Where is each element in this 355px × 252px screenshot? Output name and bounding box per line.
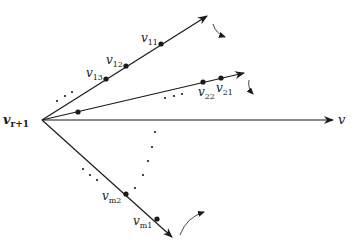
rays: v11v12v13v21v22vm1vm2 bbox=[42, 16, 253, 237]
ray-m-arrow bbox=[42, 120, 172, 237]
vector-rays-diagram: v v11v12v13v21v22vm1vm2 vr+1 bbox=[0, 0, 355, 252]
ellipsis-near-ray-m bbox=[82, 168, 98, 181]
ray-m: vm1vm2 bbox=[42, 120, 204, 237]
ellipsis-between-ray1-ray2 bbox=[56, 91, 73, 102]
vector-point bbox=[158, 41, 163, 46]
origin-label-subscript: r+1 bbox=[11, 119, 30, 129]
ellipsis-dot bbox=[142, 174, 144, 176]
ellipsis-dot bbox=[71, 91, 73, 93]
rotation-arrow-icon bbox=[213, 24, 225, 37]
ray-1: v11v12v13 bbox=[42, 16, 225, 120]
point-label: v21 bbox=[216, 81, 233, 97]
vector-point bbox=[218, 75, 223, 80]
ellipsis-dot bbox=[151, 146, 153, 148]
point-label: v22 bbox=[198, 85, 215, 101]
ellipsis-dot bbox=[82, 168, 84, 170]
rotation-arrow-icon bbox=[180, 212, 204, 235]
ellipsis-dot bbox=[181, 93, 183, 95]
point-label: v13 bbox=[86, 66, 103, 82]
rotation-arrow-icon bbox=[249, 80, 253, 94]
ellipsis-dot bbox=[56, 100, 58, 102]
ellipsis-dot bbox=[89, 174, 91, 176]
vector-point bbox=[75, 109, 80, 114]
vector-point bbox=[154, 216, 159, 221]
point-label: vm2 bbox=[102, 189, 121, 205]
vector-point bbox=[123, 191, 128, 196]
ellipsis-dot bbox=[164, 97, 166, 99]
vector-point bbox=[123, 63, 128, 68]
vector-point bbox=[103, 76, 108, 81]
ray-2: v21v22 bbox=[42, 73, 253, 120]
axis-label-v: v bbox=[338, 112, 346, 127]
ellipsis-dot bbox=[64, 95, 66, 97]
point-label: v12 bbox=[106, 53, 123, 69]
ellipsis-dot bbox=[173, 95, 175, 97]
ellipsis-dots bbox=[56, 91, 183, 189]
ellipsis-below-ray2 bbox=[164, 93, 183, 99]
ellipsis-dot bbox=[147, 160, 149, 162]
point-label: v11 bbox=[141, 31, 158, 47]
ellipsis-arc-to-ray-m bbox=[134, 131, 156, 189]
ellipsis-dot bbox=[154, 131, 156, 133]
ellipsis-dot bbox=[134, 187, 136, 189]
vector-point bbox=[200, 79, 205, 84]
origin-label: vr+1 bbox=[3, 112, 29, 129]
ellipsis-dot bbox=[96, 179, 98, 181]
